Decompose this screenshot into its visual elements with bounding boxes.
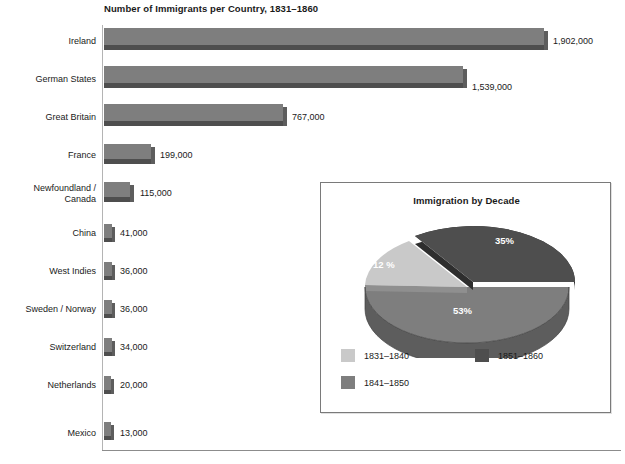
bar-fill <box>104 338 112 352</box>
bar-value-label: 115,000 <box>140 188 172 198</box>
legend-swatch-icon <box>475 349 489 362</box>
bar-value-label: 1,902,000 <box>553 36 593 46</box>
legend-label: 1831–1840 <box>364 351 409 361</box>
bar-value-label: 13,000 <box>120 428 148 438</box>
bar-fill <box>104 182 130 197</box>
bar-category-label: France <box>0 150 96 161</box>
bar-shape <box>104 104 287 126</box>
bar-category-label: German States <box>0 74 96 85</box>
bar-fill <box>104 300 112 314</box>
bar-shadow-edge <box>104 83 463 88</box>
bar-shape <box>104 422 114 440</box>
bar-side-face <box>111 379 114 394</box>
bar-shadow-edge <box>104 314 112 318</box>
bar-category-label: China <box>0 228 96 239</box>
bar-side-face <box>283 107 287 126</box>
bar-value-label: 199,000 <box>160 150 193 160</box>
bar-value-label: 20,000 <box>120 380 148 390</box>
legend-label: 1851–1860 <box>498 351 543 361</box>
bar-fill <box>104 422 111 436</box>
pie-chart-inset-panel: Immigration by Decade <box>320 182 611 413</box>
bar-value-label: 36,000 <box>120 304 148 314</box>
bar-shape <box>104 300 115 318</box>
bar-side-face <box>130 185 134 202</box>
legend-item-1841-1850[interactable]: 1841–1850 <box>341 376 409 389</box>
bar-fill <box>104 144 151 159</box>
bar-shape <box>104 144 155 164</box>
bar-shadow-edge <box>104 197 130 202</box>
bar-value-label: 767,000 <box>292 112 325 122</box>
pie-chart-title: Immigration by Decade <box>321 195 612 206</box>
bar-shape <box>104 28 548 50</box>
bar-side-face <box>112 303 115 318</box>
bar-shadow-edge <box>104 390 111 394</box>
bar-fill <box>104 66 463 83</box>
bar-category-label: Mexico <box>0 428 96 439</box>
table-row: France 199,000 <box>0 144 625 168</box>
bar-shape <box>104 338 115 356</box>
bar-shape <box>104 262 115 280</box>
bar-shape <box>104 66 467 88</box>
bar-value-label: 1,539,000 <box>472 82 512 92</box>
bar-shadow-edge <box>104 159 151 164</box>
bar-shape <box>104 376 114 394</box>
legend-item-1851-1860[interactable]: 1851–1860 <box>475 349 543 362</box>
pie-data-label-35: 35% <box>495 235 514 246</box>
bar-category-label: Great Britain <box>0 112 96 123</box>
bar-shadow-edge <box>104 238 112 242</box>
table-row: Ireland 1,902,000 <box>0 28 625 54</box>
pie-data-label-53: 53% <box>453 305 472 316</box>
bar-category-label: Switzerland <box>0 342 96 353</box>
legend-swatch-icon <box>341 376 355 389</box>
bar-side-face <box>112 265 115 280</box>
bar-side-face <box>112 227 115 242</box>
bar-category-label: West Indies <box>0 266 96 277</box>
bar-category-label: Netherlands <box>0 380 96 391</box>
legend-swatch-icon <box>341 349 355 362</box>
bar-fill <box>104 104 283 121</box>
page-title: Number of Immigrants per Country, 1831–1… <box>104 3 318 14</box>
pie-chart-graphic: 35% 12 % 53% <box>347 213 587 358</box>
bar-category-label: Ireland <box>0 36 96 47</box>
legend-item-1831-1840[interactable]: 1831–1840 <box>341 349 409 362</box>
pie-data-label-12: 12 % <box>373 259 395 270</box>
bar-shadow-edge <box>104 276 112 280</box>
bar-shadow-edge <box>104 121 283 126</box>
bar-fill <box>104 262 112 276</box>
bar-shadow-edge <box>104 436 111 440</box>
pie-svg <box>347 213 587 358</box>
bar-side-face <box>463 69 467 88</box>
bar-fill <box>104 376 111 390</box>
bar-side-face <box>111 425 114 440</box>
table-row: Great Britain 767,000 <box>0 104 625 130</box>
bar-side-face <box>544 31 548 50</box>
bar-value-label: 34,000 <box>120 342 148 352</box>
bar-shape <box>104 224 115 242</box>
bar-value-label: 41,000 <box>120 228 148 238</box>
bar-side-face <box>112 341 115 356</box>
table-row: Mexico 13,000 <box>0 414 625 436</box>
bar-fill <box>104 224 112 238</box>
bar-fill <box>104 28 544 45</box>
bar-category-label: Sweden / Norway <box>0 304 96 315</box>
bar-shape <box>104 182 134 202</box>
bar-category-label: Newfoundland / Canada <box>0 183 96 204</box>
immigration-chart-figure: Number of Immigrants per Country, 1831–1… <box>0 0 625 464</box>
bar-shadow-edge <box>104 352 112 356</box>
legend-label: 1841–1850 <box>364 378 409 388</box>
table-row: German States 1,539,000 <box>0 66 625 92</box>
bar-shadow-edge <box>104 45 544 50</box>
bar-side-face <box>151 147 155 164</box>
bar-value-label: 36,000 <box>120 266 148 276</box>
